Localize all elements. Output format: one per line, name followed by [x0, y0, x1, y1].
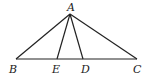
label-e: E — [51, 63, 60, 76]
segment-ac — [70, 14, 137, 59]
label-a: A — [66, 1, 75, 14]
label-d: D — [80, 63, 90, 76]
label-c: C — [133, 63, 142, 76]
segment-ae — [57, 14, 70, 59]
segment-ab — [16, 14, 70, 59]
label-b: B — [8, 63, 17, 76]
triangle-diagram: A B E D C — [0, 0, 151, 80]
